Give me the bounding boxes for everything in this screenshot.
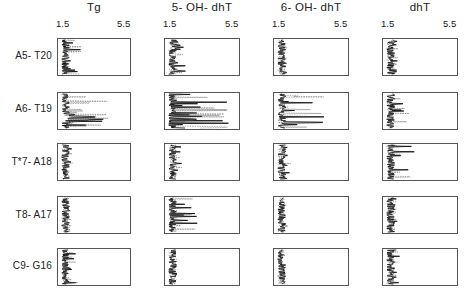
panel-t8-a17-dht [382,196,458,234]
panel-a6-t19-tg [57,92,131,130]
panel-c9-g16-dht [382,248,458,286]
profile-trace [58,249,130,285]
panel-a6-t19-5-oh-dht [164,92,240,130]
profile-trace [274,93,348,129]
panel-a6-t19-dht [382,92,458,130]
panel-a5-t20-tg [57,38,131,76]
column-title-tg: Tg [49,1,139,13]
tick-min-5-oh-dht: 1.5 [163,18,176,29]
profile-trace [383,197,457,233]
panel-t8-a17-tg [57,196,131,234]
profile-trace [383,39,457,75]
profile-trace [274,197,348,233]
profile-trace [274,39,348,75]
profile-trace [383,144,457,180]
panel-t8-a17-5-oh-dht [164,196,240,234]
panel-a6-t19-6-oh-dht [273,92,349,130]
profile-trace [383,249,457,285]
tick-min-tg: 1.5 [56,18,69,29]
panel-t-7-a18-5-oh-dht [164,143,240,181]
panel-c9-g16-tg [57,248,131,286]
profile-trace [58,39,130,75]
row-label-a5-t20: A5- T20 [0,50,52,61]
profile-trace [165,39,239,75]
profile-trace [58,144,130,180]
tick-max-dht: 5.5 [443,18,456,29]
panel-c9-g16-5-oh-dht [164,248,240,286]
panel-c9-g16-6-oh-dht [273,248,349,286]
profile-trace [165,197,239,233]
panel-t8-a17-6-oh-dht [273,196,349,234]
profile-trace [274,249,348,285]
panel-a5-t20-5-oh-dht [164,38,240,76]
column-title-dht: dhT [375,1,465,13]
row-label-t7-a18: T*7- A18 [0,156,52,167]
panel-a5-t20-dht [382,38,458,76]
panel-t-7-a18-6-oh-dht [273,143,349,181]
row-label-a6-t19: A6- T19 [0,103,52,114]
tick-min-dht: 1.5 [381,18,394,29]
tick-min-6-oh-dht: 1.5 [272,18,285,29]
panel-t-7-a18-tg [57,143,131,181]
tick-max-tg: 5.5 [117,18,130,29]
profile-trace [165,93,239,129]
row-label-c9-g16: C9- G16 [0,260,52,271]
profile-trace [274,144,348,180]
row-label-t8-a17: T8- A17 [0,209,52,220]
panel-a5-t20-6-oh-dht [273,38,349,76]
panel-t-7-a18-dht [382,143,458,181]
profile-trace [383,93,457,129]
profile-trace [165,144,239,180]
tick-max-5-oh-dht: 5.5 [225,18,238,29]
column-title-5-oh-dht: 5- OH- dhT [157,1,247,13]
profile-trace [58,197,130,233]
profile-trace [165,249,239,285]
profile-trace [58,93,130,129]
tick-max-6-oh-dht: 5.5 [334,18,347,29]
column-title-6-oh-dht: 6- OH- dhT [266,1,356,13]
